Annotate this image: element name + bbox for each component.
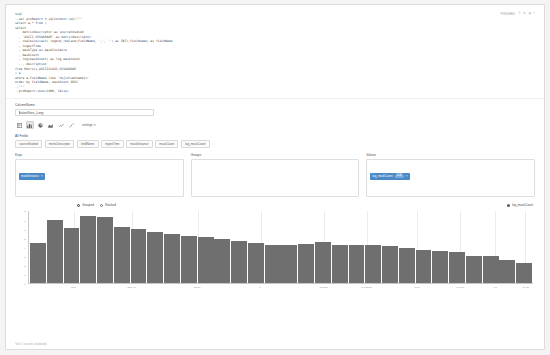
chart-mode-options: Grouped Stacked	[77, 203, 116, 207]
x-tick-label: 0.00	[414, 286, 419, 289]
bar[interactable]	[298, 244, 314, 283]
bar[interactable]	[80, 216, 96, 284]
bar[interactable]	[281, 245, 297, 283]
paragraph-status-bar: FINISHED ☰ ⚙ ▶ »	[501, 12, 535, 16]
bar[interactable]	[231, 241, 247, 283]
column-name-input[interactable]	[15, 109, 154, 117]
close-icon[interactable]: ×	[41, 175, 43, 178]
field-chip[interactable]: sourceStudied	[15, 140, 42, 148]
paragraph-footer: Took 1 seconds (outdated)	[15, 343, 47, 346]
menu-icon[interactable]: ☰	[518, 12, 521, 15]
bar[interactable]	[399, 248, 415, 284]
chart-legend[interactable]: log_maskCount	[507, 203, 533, 207]
x-tick-label: -999.00	[456, 286, 464, 289]
bar[interactable]	[265, 245, 281, 284]
x-tick-label: -99.00	[522, 286, 529, 289]
bar[interactable]	[466, 256, 482, 284]
values-column: Values log_maskCountSUM×	[366, 153, 535, 197]
bar[interactable]	[30, 243, 46, 284]
y-tick-label: 3	[24, 256, 25, 259]
pivot-config: Keys maskInstance× Groups Values log_mas…	[15, 153, 535, 197]
scatter-chart-icon[interactable]	[68, 121, 76, 129]
y-tick-label: 5	[24, 237, 25, 240]
bar[interactable]	[332, 245, 348, 283]
y-tick-label: 7	[24, 219, 25, 222]
bar[interactable]	[64, 228, 80, 283]
chart-type-toolbar: settings ▾	[15, 121, 535, 129]
pie-chart-icon[interactable]	[36, 121, 44, 129]
bar[interactable]	[349, 245, 365, 284]
all-fields-section: All Fields sourceStudiedmetricDescriptor…	[15, 134, 535, 148]
bar[interactable]	[214, 239, 230, 283]
mode-grouped-label: Grouped	[82, 203, 94, 207]
radio-stacked-icon[interactable]	[100, 204, 103, 207]
run-icon[interactable]: ▶	[529, 12, 531, 15]
area-chart-icon[interactable]	[47, 121, 55, 129]
field-chip[interactable]: maskCount	[155, 140, 178, 148]
bar[interactable]	[483, 256, 499, 284]
field-chip[interactable]: log_maskCount	[181, 140, 210, 148]
bar[interactable]	[97, 217, 113, 284]
gear-icon[interactable]: ⚙	[523, 12, 526, 15]
bar[interactable]	[499, 260, 515, 283]
field-chip[interactable]: metricDescriptor	[45, 140, 75, 148]
legend-swatch-icon	[507, 204, 510, 207]
bar[interactable]	[131, 229, 147, 284]
y-tick-label: 2	[24, 265, 25, 268]
field-chip[interactable]: maskInstance	[126, 140, 153, 148]
pivot-chip-label: maskInstance	[21, 175, 39, 178]
pivot-chip-agg[interactable]: SUM	[395, 175, 404, 179]
keys-column: Keys maskInstance×	[15, 153, 184, 197]
pivot-chip-label: log_maskCount	[372, 175, 392, 178]
field-chip[interactable]: ingestTime	[101, 140, 124, 148]
chart-settings: ColumnName	[6, 99, 544, 200]
bar[interactable]	[432, 251, 448, 284]
bar[interactable]	[198, 237, 214, 283]
bar[interactable]	[315, 242, 331, 283]
app-root: %sql--val proReport = sqlContext.sql("""…	[0, 0, 550, 355]
line-chart-icon[interactable]	[57, 121, 65, 129]
mode-grouped[interactable]: Grouped	[77, 203, 94, 207]
settings-toggle[interactable]: settings ▾	[82, 123, 96, 127]
legend-label: log_maskCount	[512, 203, 533, 207]
bar[interactable]	[365, 245, 381, 283]
bar[interactable]	[449, 252, 465, 284]
bar[interactable]	[147, 232, 163, 284]
bar[interactable]	[164, 234, 180, 284]
code-editor[interactable]: %sql--val proReport = sqlContext.sql("""…	[6, 5, 544, 99]
field-chip[interactable]: fieldName	[77, 140, 99, 148]
plot-region	[28, 211, 533, 284]
bar[interactable]	[47, 220, 63, 283]
close-icon[interactable]: ×	[406, 175, 408, 178]
x-tick-label: -50.000	[319, 286, 327, 289]
mode-stacked[interactable]: Stacked	[100, 203, 116, 207]
y-tick-label: 1	[24, 274, 25, 277]
y-tick-label: 8	[24, 210, 25, 213]
groups-label: Groups	[191, 153, 360, 157]
values-dropzone[interactable]: log_maskCountSUM×	[366, 159, 535, 197]
bar-chart: Grouped Stacked log_maskCount 876543210 …	[15, 203, 535, 295]
keys-dropzone[interactable]: maskInstance×	[15, 159, 184, 197]
mode-stacked-label: Stacked	[105, 203, 116, 207]
pivot-chip[interactable]: log_maskCountSUM×	[370, 173, 410, 180]
radio-grouped-icon[interactable]	[77, 204, 80, 207]
x-tick-label: 0	[260, 286, 261, 289]
bar[interactable]	[382, 246, 398, 283]
table-chart-icon[interactable]	[15, 121, 23, 129]
pivot-chip[interactable]: maskInstance×	[19, 173, 46, 180]
y-axis: 876543210	[15, 211, 27, 284]
sql-code[interactable]: %sql--val proReport = sqlContext.sql("""…	[15, 12, 535, 94]
column-name-label: ColumnName	[15, 103, 535, 107]
bar-chart-icon[interactable]	[26, 121, 34, 129]
bar[interactable]	[114, 227, 130, 283]
bar[interactable]	[416, 250, 432, 284]
x-axis: 500-800.44950.000-50.000-0.0000000.00-99…	[28, 285, 533, 294]
chevron-double-icon[interactable]: »	[533, 12, 535, 15]
bar[interactable]	[248, 243, 264, 284]
groups-dropzone[interactable]	[191, 159, 360, 197]
bar[interactable]	[181, 236, 197, 283]
x-tick-label: 500	[71, 286, 75, 289]
all-fields-label: All Fields	[15, 134, 535, 138]
bar[interactable]	[516, 263, 532, 283]
notebook-paragraph: %sql--val proReport = sqlContext.sql("""…	[5, 4, 545, 350]
